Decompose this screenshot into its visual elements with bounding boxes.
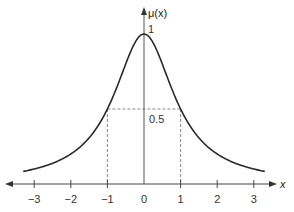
x-axis-label: x [279,178,286,190]
tick-label: −2 [65,193,78,205]
tick-label: 2 [214,193,220,205]
y-axis-arrow-icon [141,7,147,15]
x-tick-labels: −3 −2 −1 0 1 2 3 [28,193,257,205]
tick-label: −3 [28,193,41,205]
y-axis-label: μ(x) [148,7,167,19]
half-value-label: 0.5 [149,113,164,125]
x-axis-left-arrow-icon [5,181,13,187]
peak-label: 1 [148,23,154,35]
tick-label: 3 [251,193,257,205]
chart: −3 −2 −1 0 1 2 3 x μ(x) 1 0.5 [0,0,294,212]
tick-label: −1 [101,193,114,205]
tick-label: 0 [141,193,147,205]
x-axis-right-arrow-icon [269,181,277,187]
tick-label: 1 [178,193,184,205]
